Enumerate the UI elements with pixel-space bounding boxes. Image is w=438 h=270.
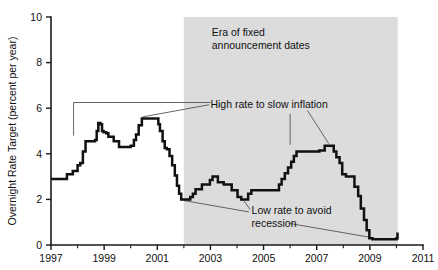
- x-tick-label-2001: 2001: [146, 252, 170, 264]
- y-tick-label-0: 0: [36, 239, 42, 251]
- x-tick-label-2003: 2003: [199, 252, 223, 264]
- x-axis-ticks-group: 19971999200120032005200720092011: [39, 245, 434, 264]
- y-tick-label-8: 8: [36, 56, 42, 68]
- overnight-rate-target-chart: 0246810 19971999200120032005200720092011…: [0, 0, 438, 270]
- y-tick-label-4: 4: [36, 148, 42, 160]
- x-tick-label-2007: 2007: [305, 252, 329, 264]
- y-axis-title: Overnight Rate Target (percent per year): [6, 37, 18, 226]
- figure-container: 0246810 19971999200120032005200720092011…: [0, 0, 438, 270]
- x-tick-label-2011: 2011: [412, 252, 435, 264]
- x-tick-label-1997: 1997: [39, 252, 63, 264]
- x-tick-label-1999: 1999: [92, 252, 116, 264]
- x-tick-label-2005: 2005: [252, 252, 276, 264]
- x-tick-label-2009: 2009: [358, 252, 382, 264]
- y-tick-label-6: 6: [36, 102, 42, 114]
- y-tick-label-2: 2: [36, 193, 42, 205]
- high-rate-label: High rate to slow inflation: [210, 98, 327, 110]
- y-axis-ticks-group: 0246810: [30, 11, 51, 251]
- y-tick-label-10: 10: [30, 11, 42, 23]
